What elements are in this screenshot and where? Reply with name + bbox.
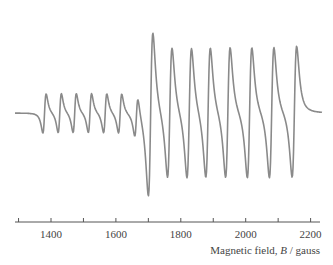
x-tick-label: 2000 — [235, 228, 257, 240]
x-axis-title: Magnetic field, B / gauss — [210, 244, 320, 256]
x-tick-label: 2200 — [300, 228, 322, 240]
x-tick-label: 1400 — [40, 228, 62, 240]
x-axis-ticks — [19, 218, 311, 222]
epr-spectrum-chart — [0, 0, 333, 265]
spectrum-trace — [15, 33, 322, 195]
x-tick-label: 1600 — [105, 228, 127, 240]
x-tick-label: 1800 — [170, 228, 192, 240]
